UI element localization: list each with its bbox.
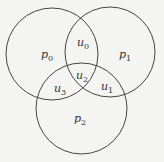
label-u3: u3	[54, 83, 66, 97]
label-u1: u1	[101, 81, 113, 95]
label-p1: p1	[119, 49, 131, 63]
label-p0: p0	[41, 49, 53, 63]
label-u0: u0	[77, 37, 89, 51]
label-u2: u2	[76, 70, 88, 84]
label-p2: p2	[74, 113, 86, 127]
